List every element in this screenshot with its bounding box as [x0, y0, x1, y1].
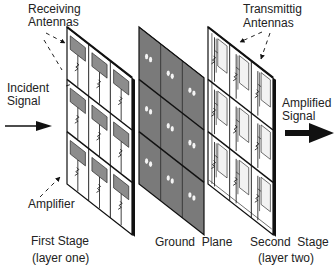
incident-signal-label: Incident Signal — [7, 81, 52, 108]
amplifier-leader — [40, 177, 60, 197]
second-stage-layer — [208, 27, 276, 237]
second-stage-label: Second Stage (layer two) — [250, 235, 332, 265]
via-hole-icon — [171, 178, 174, 184]
via-hole-icon — [171, 126, 174, 132]
via-hole-icon — [167, 71, 170, 77]
ground-plane-label: Ground Plane — [155, 235, 233, 249]
ground-plane-layer — [139, 27, 204, 235]
first-stage-layer — [67, 27, 135, 237]
stacked-layer-diagram: Receiving Antennas Incident Signal Ampli… — [0, 0, 336, 273]
via-hole-icon — [145, 54, 148, 60]
via-hole-icon — [145, 158, 148, 164]
via-hole-icon — [149, 109, 152, 115]
via-hole-icon — [192, 90, 195, 96]
amplifier-label: Amplifier — [28, 197, 75, 211]
via-hole-icon — [149, 161, 152, 167]
via-hole-icon — [145, 106, 148, 112]
via-hole-icon — [171, 74, 174, 80]
via-hole-icon — [167, 123, 170, 129]
via-hole-icon — [149, 57, 152, 63]
via-hole-icon — [188, 192, 191, 198]
via-hole-icon — [192, 195, 195, 201]
first-stage-label: First Stage (layer one) — [31, 234, 92, 265]
incident-signal-arrow — [5, 121, 52, 131]
via-hole-icon — [167, 175, 170, 181]
receiving-antennas-label: Receiving Antennas — [28, 2, 84, 29]
amplified-signal-label: Amplified Signal — [282, 96, 335, 123]
transmitting-antennas-label: Transmittig Antennas — [243, 2, 305, 30]
via-hole-icon — [188, 140, 191, 146]
via-hole-icon — [192, 143, 195, 149]
via-hole-icon — [188, 87, 191, 93]
amplified-signal-arrow — [285, 123, 334, 143]
